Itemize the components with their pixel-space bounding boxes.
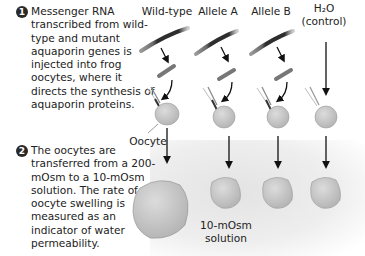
oocyte-label-pointer — [148, 124, 158, 133]
curved-arrow-icon — [164, 80, 172, 98]
curved-arrow-icon — [224, 82, 232, 100]
mrna-strand-allele-a — [196, 31, 237, 54]
swollen-oocyte-allele-a — [211, 177, 241, 208]
oocyte-wild-type — [155, 103, 179, 125]
swollen-oocyte-allele-b — [263, 177, 293, 208]
swollen-oocyte-wild-type — [133, 181, 188, 239]
oocyte-allele-b — [267, 106, 289, 128]
oocyte-allele-a — [213, 106, 235, 128]
arrow-icon — [221, 47, 227, 59]
mrna-strand-wild-type — [141, 28, 188, 51]
curved-arrow-icon — [279, 82, 287, 100]
mrna-fragment-allele-a — [219, 70, 234, 79]
swollen-oocyte-control — [311, 177, 341, 208]
mrna-fragment-wild-type — [159, 66, 174, 76]
arrow-icon — [161, 48, 167, 60]
oocyte-control — [315, 106, 337, 128]
mrna-fragment-allele-b — [276, 70, 291, 79]
arrow-icon — [277, 47, 283, 59]
mrna-strand-allele-b — [251, 31, 293, 54]
